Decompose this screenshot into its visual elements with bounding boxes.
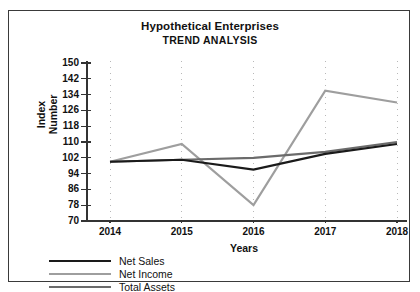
y-tick-label-102: 102 — [49, 153, 79, 163]
y-tick-label-70: 70 — [49, 216, 79, 226]
chart-title-block: Hypothetical Enterprises TREND ANALYSIS — [9, 19, 411, 47]
y-tick-label-126: 126 — [49, 105, 79, 115]
y-tick-label-142: 142 — [49, 74, 79, 84]
y-tick-label-150: 150 — [49, 58, 79, 68]
legend-label: Net Income — [119, 268, 173, 280]
y-axis-tick-labels: 70788694102110118126134142150 — [47, 61, 79, 223]
x-tick-label-2016: 2016 — [234, 226, 274, 237]
x-tick-label-2014: 2014 — [90, 226, 130, 237]
chart-legend: Net SalesNet IncomeTotal Assets — [49, 254, 289, 292]
trend-line-chart — [79, 61, 409, 223]
chart-title-subtitle: TREND ANALYSIS — [9, 33, 411, 47]
chart-title-company: Hypothetical Enterprises — [9, 19, 411, 33]
legend-label: Total Assets — [119, 281, 175, 292]
y-tick-label-110: 110 — [49, 137, 79, 147]
y-tick-label-86: 86 — [49, 184, 79, 194]
legend-item-total-assets: Total Assets — [49, 280, 289, 292]
legend-swatch-icon — [49, 286, 111, 288]
x-tick-label-2015: 2015 — [162, 226, 202, 237]
y-tick-label-118: 118 — [49, 121, 79, 131]
plot-area — [79, 61, 409, 223]
legend-item-net-sales: Net Sales — [49, 254, 289, 267]
y-tick-label-78: 78 — [49, 200, 79, 210]
x-tick-label-2017: 2017 — [305, 226, 345, 237]
legend-label: Net Sales — [119, 255, 165, 267]
legend-swatch-icon — [49, 273, 111, 275]
y-tick-label-94: 94 — [49, 169, 79, 179]
x-axis-tick-labels: 20142015201620172018 — [79, 226, 415, 242]
legend-item-net-income: Net Income — [49, 267, 289, 280]
y-tick-label-134: 134 — [49, 90, 79, 100]
chart-frame: Hypothetical Enterprises TREND ANALYSIS … — [8, 10, 410, 282]
legend-swatch-icon — [49, 260, 111, 262]
x-axis-title: Years — [79, 242, 409, 254]
x-tick-label-2018: 2018 — [377, 226, 417, 237]
